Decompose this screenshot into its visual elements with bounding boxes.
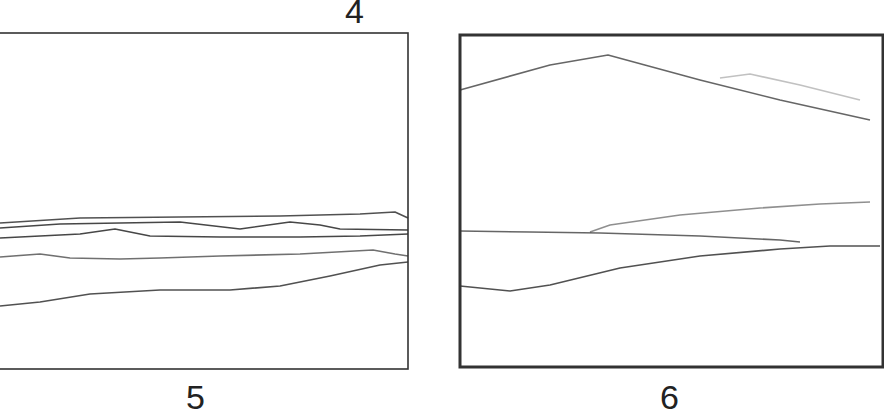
dip-rise-line	[460, 246, 880, 291]
panel-6	[460, 35, 883, 367]
panel-6-label: 6	[660, 380, 679, 414]
panel-5	[0, 33, 408, 369]
panel-5-label: 5	[186, 380, 205, 414]
panel-5-frame	[0, 33, 408, 369]
panel-4-label: 4	[345, 0, 364, 28]
rising-line	[590, 202, 870, 232]
upper-line-2	[0, 222, 408, 230]
panel-6-frame	[460, 35, 883, 367]
upper-line-3	[0, 229, 408, 238]
upper-line-1	[0, 212, 408, 223]
middle-line	[0, 250, 408, 259]
faint-arc	[720, 74, 860, 100]
lower-line	[0, 262, 408, 306]
flat-line	[460, 231, 800, 242]
diagram-canvas	[0, 0, 884, 414]
